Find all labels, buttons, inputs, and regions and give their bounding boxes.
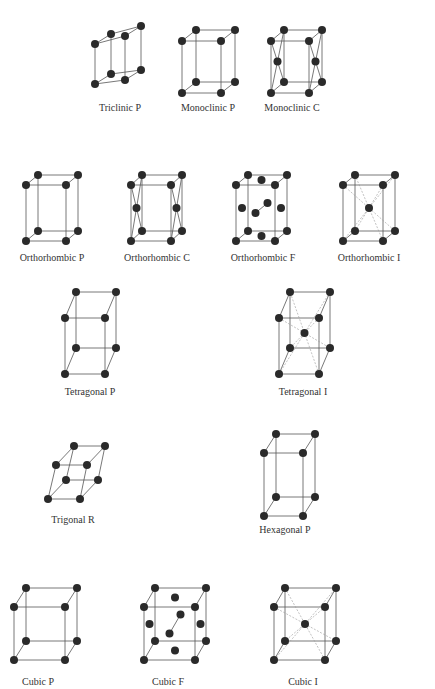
lattice-label-cubic-p: Cubic P [22, 676, 54, 687]
lattice-point [91, 40, 99, 48]
lattice-point [231, 78, 239, 86]
lattice-point [101, 314, 109, 322]
lattice-point [351, 171, 359, 179]
lattice-point [121, 32, 129, 40]
lattice-point [299, 512, 307, 520]
lattice-point [178, 171, 186, 179]
lattice-point [231, 26, 239, 34]
lattice-point [107, 70, 115, 78]
lattice-point [286, 344, 294, 352]
lattice-point [280, 78, 288, 86]
lattice-label-orthorhombic-i: Orthorhombic I [338, 252, 401, 263]
lattice-point [326, 344, 334, 352]
lattice-point [34, 227, 42, 235]
lattice-point [127, 237, 135, 245]
lattice-point [138, 171, 146, 179]
lattice-point [177, 611, 185, 619]
lattice-point [112, 288, 120, 296]
lattice-point [191, 603, 199, 611]
lattice-point [312, 58, 320, 66]
lattice-point [379, 237, 387, 245]
lattice-point [22, 584, 30, 592]
lattice-point [137, 22, 145, 30]
lattice-point [73, 584, 81, 592]
lattice-point [305, 89, 313, 97]
lattice-cubic-i [270, 584, 340, 664]
lattice-point [22, 237, 30, 245]
lattice-point [62, 237, 70, 245]
lattice-point [332, 637, 340, 645]
lattice-label-orthorhombic-c: Orthorhombic C [124, 252, 190, 263]
lattice-point [73, 637, 81, 645]
lattice-point [277, 204, 285, 212]
lattice-point [10, 603, 18, 611]
lattice-orthorhombic-i [339, 171, 399, 245]
lattice-point [62, 476, 70, 484]
lattice-label-orthorhombic-f: Orthorhombic F [231, 252, 296, 263]
lattice-point [171, 647, 179, 655]
lattice-label-cubic-i: Cubic I [288, 676, 318, 687]
lattice-point [61, 314, 69, 322]
lattice-point [52, 461, 60, 469]
lattice-orthorhombic-p [22, 171, 82, 245]
lattice-point [202, 584, 210, 592]
lattice-point [267, 89, 275, 97]
lattice-point [281, 584, 289, 592]
lattice-point [10, 656, 18, 664]
lattice-point [318, 78, 326, 86]
lattice-point [283, 227, 291, 235]
lattice-point [61, 656, 69, 664]
lattice-point [127, 181, 135, 189]
lattice-point [22, 181, 30, 189]
lattice-point [264, 199, 272, 207]
lattice-point [280, 26, 288, 34]
lattice-point [260, 512, 268, 520]
lattice-point [271, 181, 279, 189]
lattice-point [146, 620, 154, 628]
lattice-cubic-f [140, 584, 210, 664]
lattice-point [270, 656, 278, 664]
lattice-point [173, 204, 181, 212]
lattice-point [272, 430, 280, 438]
lattice-point [270, 603, 278, 611]
lattice-point [178, 37, 186, 45]
lattice-point [283, 171, 291, 179]
lattice-monoclinic-p [178, 26, 239, 97]
lattice-point [260, 449, 268, 457]
lattice-point [318, 26, 326, 34]
lattice-point [232, 237, 240, 245]
lattice-point [365, 204, 373, 212]
lattice-point [191, 656, 199, 664]
lattice-point [91, 80, 99, 88]
lattice-orthorhombic-f [232, 171, 291, 245]
lattice-point [275, 314, 283, 322]
lattice-point [252, 209, 260, 217]
lattice-point [332, 584, 340, 592]
lattice-point [315, 314, 323, 322]
lattice-point [379, 181, 387, 189]
lattice-point [339, 181, 347, 189]
lattice-point [140, 603, 148, 611]
lattice-point [72, 344, 80, 352]
lattice-label-monoclinic-p: Monoclinic P [181, 102, 235, 113]
lattice-label-trigonal-r: Trigonal R [51, 514, 94, 525]
lattice-point [202, 637, 210, 645]
lattice-point [70, 442, 78, 450]
lattice-point [167, 181, 175, 189]
lattice-orthorhombic-c [127, 171, 186, 245]
lattice-point [275, 370, 283, 378]
lattice-label-monoclinic-c: Monoclinic C [264, 102, 319, 113]
lattice-point [299, 449, 307, 457]
lattice-point [138, 227, 146, 235]
lattice-point [326, 288, 334, 296]
lattice-point [107, 30, 115, 38]
lattice-point [197, 620, 205, 628]
lattice-label-tetragonal-i: Tetragonal I [279, 386, 327, 397]
lattice-point [61, 603, 69, 611]
lattice-point [271, 237, 279, 245]
lattice-point [311, 430, 319, 438]
lattice-label-hexagonal-p: Hexagonal P [259, 524, 310, 535]
lattice-point [244, 227, 252, 235]
lattice-point [286, 288, 294, 296]
lattice-point [151, 584, 159, 592]
